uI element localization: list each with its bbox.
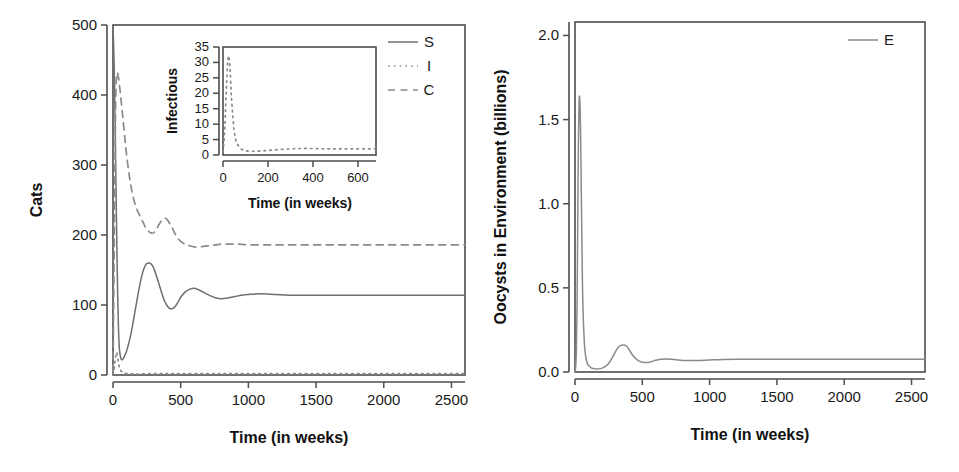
cats-xticks-label: 0: [109, 391, 117, 408]
oocysts-y-tick-labels: 0.00.51.01.52.0: [538, 26, 559, 380]
cats-y-axis: 0100200300400500: [72, 16, 107, 383]
cats-y-axis-title: Cats: [28, 183, 45, 218]
cats-x-axis: 05001000150020002500: [109, 382, 468, 408]
legend-label-I: I: [427, 57, 431, 74]
inset-yticks-label: 5: [202, 132, 209, 147]
inset-y-axis-title: Infectious: [164, 68, 180, 134]
cats-yticks-label: 500: [72, 16, 97, 33]
inset-x-axis-title: Time (in weeks): [248, 195, 352, 211]
cats-x-axis-title: Time (in weeks): [230, 429, 349, 446]
oocysts-plot-frame: [575, 22, 925, 372]
ooc-yticks-label: 2.0: [538, 26, 559, 43]
cats-x-tick-labels: 05001000150020002500: [109, 391, 468, 408]
oocysts-x-axis-title: Time (in weeks): [691, 426, 810, 443]
inset-x-axis: 0200400600: [219, 161, 376, 185]
cats-xticks-label: 500: [168, 391, 193, 408]
cats-yticks-label: 100: [72, 296, 97, 313]
oocysts-y-axis: 0.00.51.01.52.0: [538, 22, 569, 380]
legend-label-E: E: [884, 31, 894, 48]
series-line-E: [575, 96, 925, 372]
series-line-I: [223, 56, 376, 152]
infectious-inset: 05101520253035 0200400600 Infectious Tim…: [164, 39, 376, 211]
oocysts-x-ticks: [575, 379, 912, 385]
cats-xticks-label: 2500: [435, 391, 468, 408]
ooc-xticks-label: 1000: [693, 388, 726, 405]
inset-yticks-label: 15: [195, 101, 209, 116]
inset-yticks-label: 25: [195, 70, 209, 85]
cats-yticks-label: 0: [89, 366, 97, 383]
cats-x-ticks: [113, 382, 451, 388]
cats-panel: 0100200300400500 05001000150020002500 Ca…: [0, 0, 480, 472]
cats-xticks-label: 1500: [299, 391, 332, 408]
oocysts-y-axis-title: Oocysts in Environment (billions): [492, 69, 509, 324]
oocysts-x-tick-labels: 05001000150020002500: [571, 388, 928, 405]
ooc-yticks-label: 1.0: [538, 195, 559, 212]
cats-xticks-label: 1000: [232, 391, 265, 408]
oocysts-series-group: [575, 96, 925, 372]
cats-xticks-label: 2000: [367, 391, 400, 408]
inset-xticks-label: 200: [257, 170, 279, 185]
inset-x-tick-labels: 0200400600: [219, 170, 368, 185]
oocysts-legend: E: [848, 31, 894, 48]
inset-plot-frame: [223, 47, 376, 155]
legend-label-S: S: [424, 33, 434, 50]
inset-y-tick-labels: 05101520253035: [195, 39, 209, 162]
inset-yticks-label: 10: [195, 116, 209, 131]
inset-yticks-label: 35: [195, 39, 209, 54]
inset-y-axis: 05101520253035: [195, 39, 219, 162]
ooc-xticks-label: 1500: [760, 388, 793, 405]
inset-yticks-label: 30: [195, 54, 209, 69]
ooc-xticks-label: 500: [630, 388, 655, 405]
inset-y-ticks: [213, 47, 219, 155]
oocysts-x-axis: 05001000150020002500: [571, 379, 928, 405]
inset-xticks-label: 600: [347, 170, 369, 185]
inset-xticks-label: 0: [219, 170, 226, 185]
cats-y-tick-labels: 0100200300400500: [72, 16, 97, 383]
oocysts-y-ticks: [563, 35, 569, 372]
cats-yticks-label: 300: [72, 156, 97, 173]
inset-yticks-label: 0: [202, 147, 209, 162]
ooc-xticks-label: 2500: [895, 388, 928, 405]
inset-yticks-label: 20: [195, 85, 209, 100]
cats-plot-svg: 0100200300400500 05001000150020002500 Ca…: [0, 0, 480, 472]
cats-legend: SIC: [388, 33, 435, 98]
oocysts-plot-svg: 0.00.51.01.52.0 05001000150020002500 Ooc…: [480, 0, 959, 472]
inset-xticks-label: 400: [302, 170, 324, 185]
cats-yticks-label: 400: [72, 86, 97, 103]
cats-yticks-label: 200: [72, 226, 97, 243]
inset-series-group: [223, 56, 376, 152]
figure-root: 0100200300400500 05001000150020002500 Ca…: [0, 0, 959, 472]
ooc-yticks-label: 0.0: [538, 363, 559, 380]
ooc-yticks-label: 1.5: [538, 111, 559, 128]
ooc-xticks-label: 2000: [828, 388, 861, 405]
series-line-I: [113, 352, 465, 374]
inset-x-ticks: [223, 161, 358, 167]
legend-label-C: C: [424, 81, 435, 98]
oocysts-panel: 0.00.51.01.52.0 05001000150020002500 Ooc…: [480, 0, 959, 472]
cats-y-ticks: [101, 25, 107, 375]
ooc-xticks-label: 0: [571, 388, 579, 405]
ooc-yticks-label: 0.5: [538, 279, 559, 296]
